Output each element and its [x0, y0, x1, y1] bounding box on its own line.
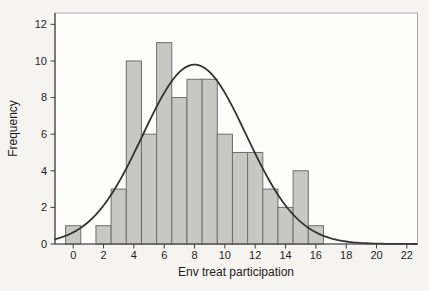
y-tick-label: 8	[41, 91, 47, 103]
x-tick-label: 22	[401, 249, 413, 261]
histogram-bar	[172, 98, 187, 244]
histogram-bar	[202, 79, 217, 244]
x-tick-label: 14	[279, 249, 291, 261]
y-tick-label: 0	[41, 238, 47, 250]
x-tick-label: 16	[310, 249, 322, 261]
x-tick-label: 20	[370, 249, 382, 261]
y-tick-label: 10	[35, 55, 47, 67]
y-tick-label: 12	[35, 18, 47, 30]
histogram-bar	[157, 43, 172, 244]
histogram-bar	[217, 134, 232, 244]
histogram-bar	[248, 152, 263, 244]
y-tick-label: 4	[41, 165, 47, 177]
x-tick-label: 0	[70, 249, 76, 261]
figure: 0246810121416182022024681012 Frequency E…	[0, 0, 429, 291]
histogram-bar	[263, 189, 278, 244]
x-tick-label: 2	[100, 249, 106, 261]
histogram-bar	[111, 189, 126, 244]
y-tick-label: 6	[41, 128, 47, 140]
x-tick-label: 8	[191, 249, 197, 261]
histogram-bar	[96, 226, 111, 244]
y-axis-title: Frequency	[6, 100, 20, 157]
chart-canvas: 0246810121416182022024681012 Frequency E…	[0, 0, 429, 291]
plot-generated: 0246810121416182022024681012	[35, 13, 418, 261]
x-axis-title: Env treat participation	[178, 265, 294, 279]
histogram-bar	[232, 152, 247, 244]
x-tick-label: 6	[161, 249, 167, 261]
histogram-bar	[187, 79, 202, 244]
histogram-bar	[141, 134, 156, 244]
x-tick-label: 18	[340, 249, 352, 261]
x-tick-label: 10	[219, 249, 231, 261]
x-tick-label: 4	[131, 249, 137, 261]
x-tick-label: 12	[249, 249, 261, 261]
histogram-bar	[293, 171, 308, 244]
y-tick-label: 2	[41, 201, 47, 213]
